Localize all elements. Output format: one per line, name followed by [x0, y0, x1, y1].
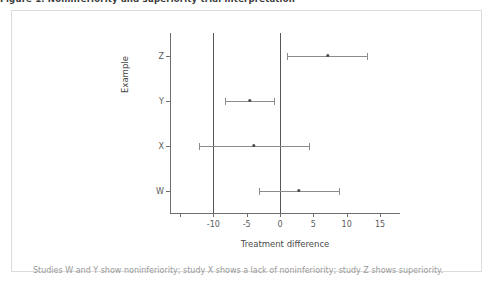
- x-axis-tick: [247, 213, 248, 217]
- ci-cap-lower: [199, 143, 200, 150]
- ci-cap-lower: [259, 188, 260, 195]
- x-axis-tick: [380, 213, 381, 217]
- y-axis-tick-label-x: X: [154, 141, 164, 150]
- ci-row-z: [170, 56, 400, 57]
- x-axis-tick-label: 15: [375, 220, 385, 229]
- x-axis-tick-label: 0: [277, 220, 282, 229]
- ci-cap-upper: [339, 188, 340, 195]
- x-axis-tick: [313, 213, 314, 217]
- x-axis-tick-label: 5: [311, 220, 316, 229]
- forest-plot-area: -10-5051015 ZYXW: [170, 33, 400, 213]
- ci-cap-upper: [274, 98, 275, 105]
- x-axis-tick-label: -5: [243, 220, 251, 229]
- ci-cap-upper: [367, 53, 368, 60]
- x-axis-tick: [280, 213, 281, 217]
- ci-row-y: [170, 101, 400, 102]
- point-estimate-marker: [248, 99, 251, 102]
- y-axis-tick-label-y: Y: [154, 96, 164, 105]
- x-axis-line: [170, 213, 400, 214]
- point-estimate-marker: [326, 54, 329, 57]
- figure-caption: Studies W and Y show noninferiority; stu…: [33, 266, 483, 275]
- reference-line-no-difference: [280, 33, 281, 213]
- ci-row-w: [170, 191, 400, 192]
- ci-cap-upper: [309, 143, 310, 150]
- ci-row-x: [170, 146, 400, 147]
- y-axis-line: [170, 33, 171, 213]
- ci-cap-lower: [287, 53, 288, 60]
- reference-line-noninferiority-margin: [213, 33, 214, 213]
- point-estimate-marker: [252, 144, 255, 147]
- x-axis-tick-label: -10: [207, 220, 220, 229]
- y-axis-tick-label-z: Z: [154, 51, 164, 60]
- ci-cap-lower: [225, 98, 226, 105]
- x-axis-tick-label: 10: [342, 220, 352, 229]
- figure-title: Figure 1. Noninferiority and superiority…: [0, 0, 300, 6]
- x-axis-title: Treatment difference: [170, 239, 400, 249]
- x-axis-tick: [347, 213, 348, 217]
- x-axis-tick: [213, 213, 214, 217]
- y-axis-tick-label-w: W: [154, 186, 164, 195]
- y-axis-title: Example: [120, 56, 130, 93]
- point-estimate-marker: [297, 189, 300, 192]
- x-axis-tick: [180, 213, 181, 217]
- figure-panel: -10-5051015 ZYXW Treatment difference Ex…: [11, 10, 482, 272]
